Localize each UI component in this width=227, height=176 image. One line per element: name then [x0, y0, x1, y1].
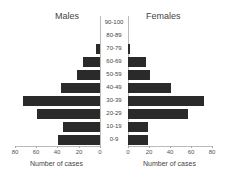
female-bar [128, 70, 150, 80]
x-tick [191, 146, 192, 148]
x-tick-label-right: 80 [205, 149, 219, 155]
x-tick-label-left: 80 [8, 149, 22, 155]
x-tick-label-right: 20 [142, 149, 156, 155]
age-group-label: 0-9 [100, 136, 128, 142]
female-bar [128, 57, 146, 67]
female-bar [128, 122, 148, 132]
age-group-label: 20-29 [100, 110, 128, 116]
x-tick-label-right: 60 [184, 149, 198, 155]
female-bar [128, 44, 130, 54]
male-bar [96, 44, 100, 54]
age-group-label: 10-19 [100, 123, 128, 129]
x-tick-label-left: 40 [50, 149, 64, 155]
male-bar [63, 122, 100, 132]
x-axis-label-right: Number of cases [143, 160, 196, 167]
female-bar [128, 83, 171, 93]
x-tick [36, 146, 37, 148]
left-x-axis [15, 146, 101, 147]
female-bar [128, 135, 148, 145]
male-bar [23, 96, 100, 106]
x-tick-label-left: 60 [29, 149, 43, 155]
female-bar [128, 109, 188, 119]
age-group-label: 80-89 [100, 32, 128, 38]
age-group-label: 90-100 [100, 19, 128, 25]
x-tick [15, 146, 16, 148]
x-tick [57, 146, 58, 148]
x-tick-label-right: 40 [163, 149, 177, 155]
x-tick [170, 146, 171, 148]
male-bar [83, 57, 100, 67]
age-group-label: 40-49 [100, 84, 128, 90]
x-tick-label-right: 0 [121, 149, 135, 155]
females-title: Females [146, 11, 181, 21]
x-axis-label-left: Number of cases [30, 160, 83, 167]
x-tick-label-left: 0 [93, 149, 107, 155]
x-tick [128, 146, 129, 148]
female-bar [128, 96, 204, 106]
male-bar [61, 83, 100, 93]
males-title: Males [55, 11, 79, 21]
male-bar [77, 70, 100, 80]
age-group-label: 30-39 [100, 97, 128, 103]
x-tick [79, 146, 80, 148]
age-group-label: 60-69 [100, 58, 128, 64]
age-group-label: 50-59 [100, 71, 128, 77]
x-tick [149, 146, 150, 148]
x-tick [100, 146, 101, 148]
x-tick [212, 146, 213, 148]
male-bar [58, 135, 100, 145]
male-bar [37, 109, 100, 119]
x-tick-label-left: 20 [72, 149, 86, 155]
age-group-label: 70-79 [100, 45, 128, 51]
